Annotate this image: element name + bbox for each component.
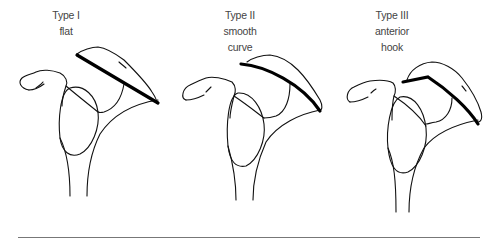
panel-3-scapula: [347, 62, 481, 212]
bottom-rule: [18, 237, 480, 238]
scapula-drawings: [0, 0, 497, 240]
panel-2-scapula: [183, 55, 322, 200]
panel-1-scapula: [20, 47, 158, 196]
